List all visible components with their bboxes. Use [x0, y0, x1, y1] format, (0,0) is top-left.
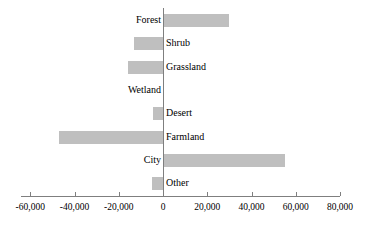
- x-axis-tick: [296, 192, 297, 196]
- category-label-wetland: Wetland: [128, 82, 161, 98]
- bar-row: Shrub: [0, 31, 370, 57]
- x-axis-tick-label: 0: [161, 201, 166, 213]
- x-axis-line: [21, 196, 340, 197]
- bar-grassland: [128, 61, 163, 74]
- category-label-shrub: Shrub: [166, 35, 190, 51]
- x-axis-tick: [119, 192, 120, 196]
- x-axis-tick: [207, 192, 208, 196]
- category-label-city: City: [144, 152, 161, 168]
- bar-forest: [163, 14, 229, 27]
- bar-desert: [153, 107, 163, 120]
- bar-row: Wetland: [0, 78, 370, 104]
- zero-axis-line: [163, 8, 164, 196]
- bar-city: [163, 154, 285, 167]
- bar-chart: ForestShrubGrasslandWetlandDesertFarmlan…: [0, 0, 370, 225]
- plot-area: ForestShrubGrasslandWetlandDesertFarmlan…: [0, 0, 370, 196]
- bar-row: Forest: [0, 8, 370, 34]
- category-label-forest: Forest: [136, 12, 161, 28]
- x-axis-tick-label: -20,000: [104, 201, 133, 213]
- x-axis-tick: [252, 192, 253, 196]
- x-axis-tick-label: -60,000: [16, 201, 45, 213]
- x-axis-tick: [340, 192, 341, 196]
- bar-row: Grassland: [0, 55, 370, 81]
- bar-other: [152, 177, 163, 190]
- bar-row: City: [0, 148, 370, 174]
- x-axis-tick: [163, 192, 164, 196]
- bar-row: Other: [0, 171, 370, 197]
- x-axis-tick-label: 40,000: [238, 201, 264, 213]
- bar-row: Farmland: [0, 125, 370, 151]
- category-label-grassland: Grassland: [166, 59, 206, 75]
- x-axis-tick-label: 20,000: [194, 201, 220, 213]
- x-axis-tick-label: 80,000: [327, 201, 353, 213]
- x-axis-tick: [30, 192, 31, 196]
- category-label-other: Other: [166, 175, 189, 191]
- bar-shrub: [134, 37, 163, 50]
- bar-row: Desert: [0, 101, 370, 127]
- x-axis-tick-label: -40,000: [60, 201, 89, 213]
- x-axis-tick-label: 60,000: [283, 201, 309, 213]
- category-label-desert: Desert: [166, 105, 192, 121]
- category-label-farmland: Farmland: [166, 129, 204, 145]
- x-axis-tick: [75, 192, 76, 196]
- bar-farmland: [59, 131, 163, 144]
